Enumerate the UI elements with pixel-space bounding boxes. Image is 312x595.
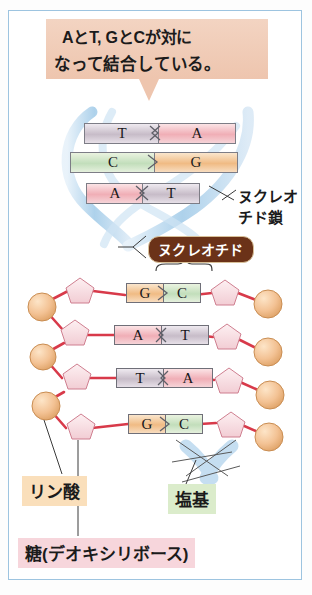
legend-sugar: 糖(デオキシリボース) (18, 538, 195, 568)
joint-row-3 (160, 417, 169, 431)
figure-canvas: AとT, GとCが対に なって結合している。 T A C G A T ヌクレオ … (0, 0, 312, 595)
legend-phosphate: リン酸 (22, 476, 87, 506)
joint-helix-1 (148, 155, 157, 169)
joint-row-0 (158, 286, 167, 300)
legend-base: 塩基 (168, 484, 216, 514)
